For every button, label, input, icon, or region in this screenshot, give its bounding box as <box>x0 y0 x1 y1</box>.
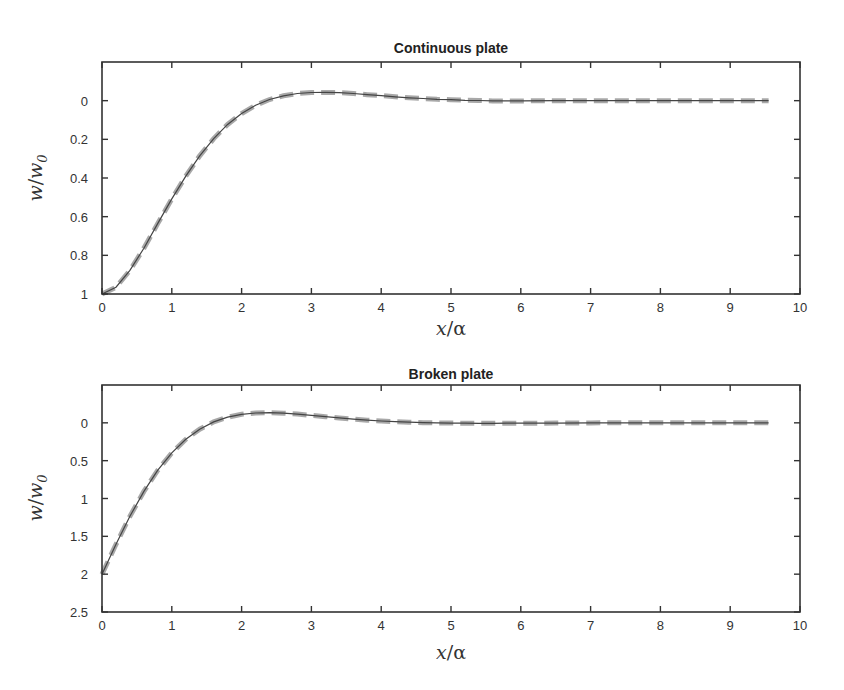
broken-plate-panel: Broken plate 012345678910 00.511.522.5 x… <box>24 366 807 663</box>
y-tick-label: 0.6 <box>70 210 88 225</box>
axis-ticks <box>102 385 800 612</box>
continuous-plate-panel: Continuous plate 012345678910 00.20.40.6… <box>24 40 807 339</box>
x-tick-label: 4 <box>378 300 385 315</box>
x-tick-label: 9 <box>727 618 734 633</box>
x-tick-label: 10 <box>793 618 807 633</box>
x-tick-label: 3 <box>308 300 315 315</box>
x-tick-label: 6 <box>517 618 524 633</box>
y-axis-label: w/w0 <box>24 154 50 201</box>
y-tick-label: 1 <box>81 287 88 302</box>
x-tick-label: 2 <box>238 300 245 315</box>
x-tick-label: 1 <box>168 618 175 633</box>
x-tick-label: 8 <box>657 618 664 633</box>
panel-title: Broken plate <box>409 366 494 382</box>
x-tick-label: 0 <box>98 618 105 633</box>
x-tick-label: 2 <box>238 618 245 633</box>
solid-curve <box>102 92 769 294</box>
x-tick-label: 10 <box>793 300 807 315</box>
dashed-curve <box>102 413 769 575</box>
x-tick-label: 1 <box>168 300 175 315</box>
y-tick-label: 0 <box>81 94 88 109</box>
y-tick-label: 1.5 <box>70 529 88 544</box>
x-tick-label: 4 <box>378 618 385 633</box>
x-tick-label: 5 <box>447 300 454 315</box>
solid-curve <box>102 413 769 575</box>
x-tick-labels: 012345678910 <box>98 300 807 315</box>
y-tick-labels: 00.20.40.60.81 <box>70 94 88 302</box>
axis-ticks <box>102 62 800 294</box>
y-tick-label: 0.8 <box>70 248 88 263</box>
y-tick-label: 1 <box>81 492 88 507</box>
dashed-curve <box>102 92 769 294</box>
x-tick-label: 7 <box>587 300 594 315</box>
y-tick-label: 2 <box>81 567 88 582</box>
panel-title: Continuous plate <box>394 40 509 56</box>
plot-frame <box>102 385 800 612</box>
y-tick-label: 0.2 <box>70 132 88 147</box>
y-axis-label: w/w0 <box>24 474 50 521</box>
x-tick-label: 9 <box>727 300 734 315</box>
y-tick-label: 0.5 <box>70 454 88 469</box>
plot-frame <box>102 62 800 294</box>
x-axis-label: x/α <box>436 641 466 663</box>
y-tick-label: 0.4 <box>70 171 88 186</box>
x-axis-label: x/α <box>436 317 466 339</box>
x-tick-label: 5 <box>447 618 454 633</box>
figure: Continuous plate 012345678910 00.20.40.6… <box>0 0 844 690</box>
x-tick-label: 3 <box>308 618 315 633</box>
x-tick-label: 0 <box>98 300 105 315</box>
y-tick-label: 0 <box>81 416 88 431</box>
plot-curves <box>102 92 769 294</box>
x-tick-label: 7 <box>587 618 594 633</box>
plot-curves <box>102 413 769 575</box>
x-tick-label: 8 <box>657 300 664 315</box>
x-tick-label: 6 <box>517 300 524 315</box>
y-tick-labels: 00.511.522.5 <box>70 416 88 620</box>
y-tick-label: 2.5 <box>70 605 88 620</box>
x-tick-labels: 012345678910 <box>98 618 807 633</box>
